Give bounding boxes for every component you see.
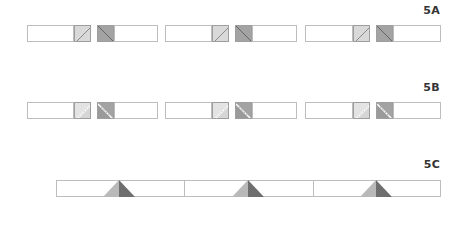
triangle-dark-half [248,180,264,197]
triangle-light-half [103,180,119,197]
triangle-light-half [232,180,248,197]
triangle-light-half [360,180,376,197]
triangle-dark-half [119,180,135,197]
triangle-dark-half [376,180,392,197]
joined-strip-art [0,0,467,226]
